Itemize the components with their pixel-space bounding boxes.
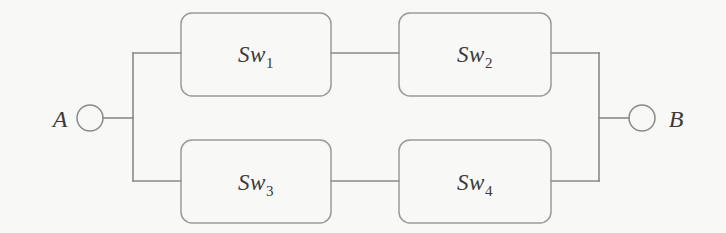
- terminal-node-b[interactable]: [629, 105, 655, 131]
- terminal-label-a: A: [51, 106, 68, 132]
- block-label-sw1: Sw1: [238, 42, 274, 71]
- block-label-sw1-base: Sw: [238, 42, 266, 67]
- block-label-sw4-base: Sw: [457, 170, 485, 195]
- block-label-sw3-base: Sw: [238, 170, 266, 195]
- block-label-sw2-base: Sw: [457, 42, 485, 67]
- wiring-group: [103, 53, 629, 181]
- diagram-canvas: Sw1 Sw2 Sw3 Sw4 A B: [0, 0, 726, 233]
- terminal-label-b: B: [669, 106, 684, 132]
- blocks-group: [181, 13, 551, 223]
- terminal-node-a[interactable]: [77, 105, 103, 131]
- block-label-sw3-subscript: 3: [266, 183, 274, 199]
- block-label-sw4-subscript: 4: [485, 183, 493, 199]
- block-label-sw3: Sw3: [238, 170, 274, 199]
- block-diagram: Sw1 Sw2 Sw3 Sw4 A B: [0, 0, 726, 233]
- block-label-sw2: Sw2: [457, 42, 493, 71]
- block-label-sw2-subscript: 2: [485, 55, 493, 71]
- block-label-sw1-subscript: 1: [266, 55, 274, 71]
- block-label-sw4: Sw4: [457, 170, 493, 199]
